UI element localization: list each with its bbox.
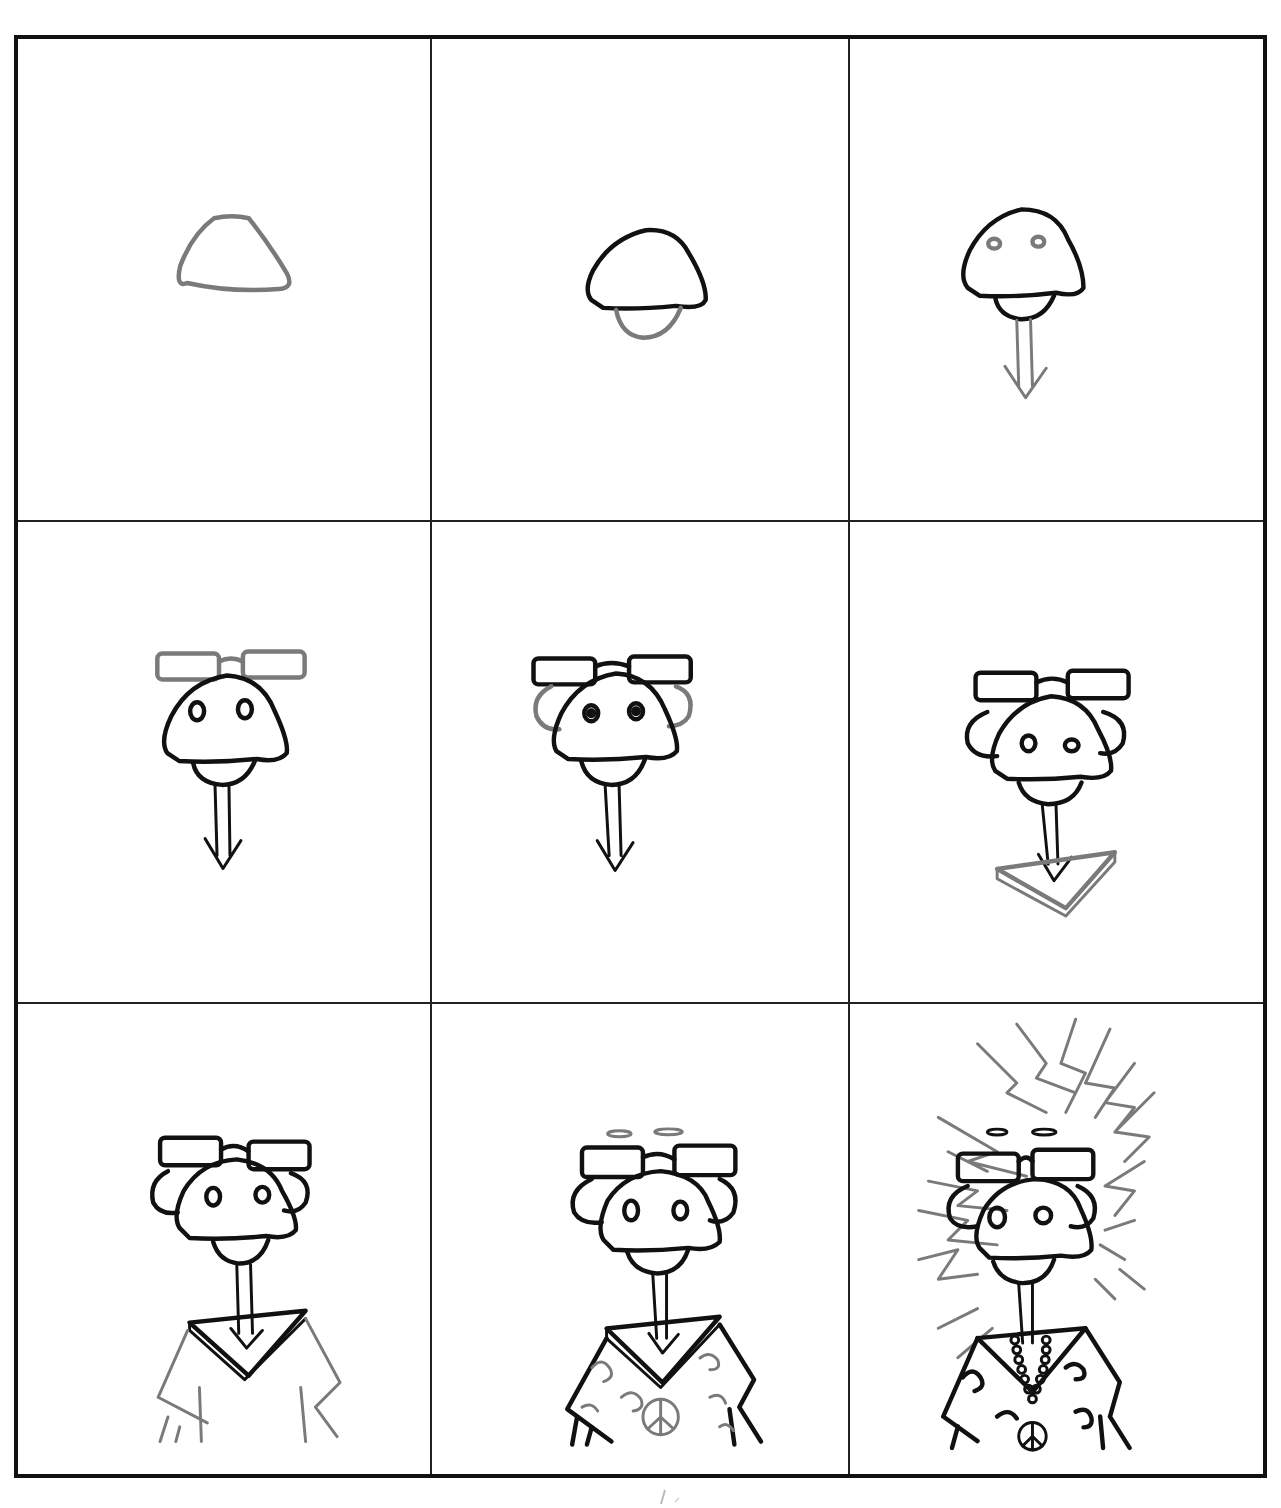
step-3-panel: [850, 39, 1263, 522]
step-5-panel: [432, 522, 850, 1004]
head-with-ears-drawing: [432, 522, 848, 1002]
head-outline-drawing: [18, 39, 430, 520]
step-6-panel: [850, 522, 1263, 1004]
spiky-hair: [919, 1019, 1154, 1357]
step-9-panel: [850, 1004, 1263, 1474]
step-8-panel: [432, 1004, 850, 1474]
figure-with-patterned-shirt-drawing: [432, 1004, 848, 1474]
head-with-collar-drawing: [850, 522, 1263, 1002]
bead-necklace: [1011, 1336, 1050, 1403]
figure-with-shirt-drawing: [18, 1004, 430, 1474]
head-with-glasses-drawing: [18, 522, 430, 1002]
head-nostrils-neck-drawing: [850, 39, 1263, 520]
stray-pencil-mark: [655, 1488, 685, 1506]
step-7-panel: [18, 1004, 432, 1474]
head-with-chin-drawing: [432, 39, 848, 520]
tutorial-grid: [14, 35, 1267, 1478]
shirt-pattern: [582, 1354, 733, 1434]
step-1-panel: [18, 39, 432, 522]
step-2-panel: [432, 39, 850, 522]
finished-character-drawing: [850, 1004, 1263, 1474]
step-4-panel: [18, 522, 432, 1004]
